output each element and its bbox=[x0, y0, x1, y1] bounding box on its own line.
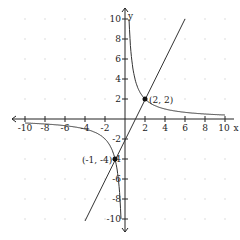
point-2-2 bbox=[143, 97, 148, 102]
svg-text:-2: -2 bbox=[112, 134, 121, 144]
svg-text:6: 6 bbox=[115, 54, 121, 64]
x-axis-label: x bbox=[233, 123, 238, 133]
svg-text:6: 6 bbox=[182, 123, 188, 133]
svg-text:-2: -2 bbox=[101, 123, 110, 133]
svg-text:-10: -10 bbox=[107, 214, 122, 224]
point-neg1-neg4 bbox=[113, 157, 118, 162]
svg-text:-6: -6 bbox=[61, 123, 70, 133]
svg-text:-6: -6 bbox=[112, 174, 121, 184]
svg-text:2: 2 bbox=[142, 123, 148, 133]
graph: -10 -8 -6 -4 -2 2 4 6 8 10 x 10 8 6 4 2 … bbox=[0, 0, 240, 240]
svg-text:10: 10 bbox=[218, 123, 230, 133]
svg-text:8: 8 bbox=[202, 123, 208, 133]
svg-text:10: 10 bbox=[110, 14, 122, 24]
svg-text:8: 8 bbox=[115, 34, 121, 44]
svg-text:4: 4 bbox=[162, 123, 168, 133]
y-axis-label: y bbox=[127, 11, 134, 21]
hyperbola-branch-negative bbox=[25, 123, 121, 219]
svg-text:-10: -10 bbox=[18, 123, 33, 133]
line-y-2x-2 bbox=[85, 19, 185, 221]
svg-text:4: 4 bbox=[115, 74, 121, 84]
svg-text:2: 2 bbox=[115, 94, 121, 104]
point-label-neg1-neg4: (-1, -4) bbox=[82, 155, 112, 165]
point-label-2-2: (2, 2) bbox=[149, 95, 173, 105]
y-axis bbox=[122, 8, 128, 232]
